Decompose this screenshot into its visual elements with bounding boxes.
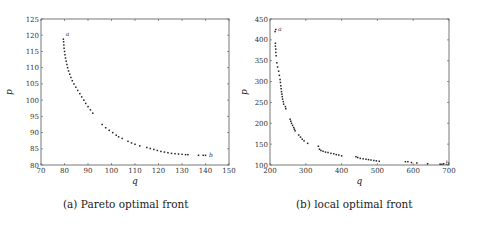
data-point <box>164 151 166 153</box>
annotation-a: a <box>278 25 282 32</box>
data-point <box>185 154 187 156</box>
data-point <box>178 153 180 155</box>
data-point <box>157 150 159 152</box>
annotation-b: b <box>445 159 449 166</box>
data-point <box>72 80 74 82</box>
y-tick-label: 400 <box>255 36 268 44</box>
data-point <box>134 144 136 146</box>
data-point <box>338 154 340 156</box>
data-point <box>275 48 277 50</box>
data-point <box>279 75 281 77</box>
data-point <box>275 42 277 44</box>
data-point <box>291 123 293 125</box>
data-point <box>303 140 305 142</box>
data-point <box>202 155 204 157</box>
data-point <box>292 125 294 127</box>
data-point <box>90 109 92 111</box>
x-tick-label: 130 <box>175 167 188 175</box>
data-point <box>298 134 300 136</box>
data-point <box>330 153 332 155</box>
data-point <box>365 158 367 160</box>
y-tick-label: 450 <box>255 16 268 24</box>
annotation-b: b <box>209 151 213 158</box>
y-tick-label: 80 <box>30 162 39 170</box>
data-point <box>70 77 72 79</box>
data-point <box>81 96 83 98</box>
data-point <box>357 157 359 159</box>
caption-panel-a: (a) Pareto optimal front <box>63 198 189 210</box>
data-point <box>275 29 277 31</box>
data-point <box>174 153 176 155</box>
data-point <box>181 154 183 156</box>
data-point <box>101 124 103 126</box>
data-point <box>322 151 324 153</box>
data-point <box>139 145 141 147</box>
y-tick-label: 100 <box>26 97 39 105</box>
y-tick-label: 85 <box>30 145 39 153</box>
data-point <box>355 156 357 158</box>
y-tick-label: 90 <box>30 129 39 137</box>
data-point <box>85 103 87 105</box>
data-point <box>341 155 343 157</box>
data-point <box>285 106 287 108</box>
data-point <box>275 45 277 47</box>
y-axis-label: p <box>4 89 14 95</box>
x-tick-label: 600 <box>407 167 420 175</box>
y-tick-label: 100 <box>255 162 268 170</box>
data-point <box>64 54 66 56</box>
x-tick-label: 400 <box>335 167 348 175</box>
x-tick-label: 90 <box>84 167 93 175</box>
data-point <box>336 154 338 156</box>
data-point <box>325 151 327 153</box>
data-point <box>65 60 67 62</box>
data-point <box>75 86 77 88</box>
y-tick-label: 120 <box>26 32 39 40</box>
data-point <box>277 66 279 68</box>
data-point <box>67 67 69 69</box>
data-point <box>362 158 364 160</box>
data-point <box>281 91 283 93</box>
y-tick-label: 300 <box>255 78 268 86</box>
data-point <box>83 99 85 101</box>
data-point <box>198 155 200 157</box>
data-point <box>279 79 281 81</box>
data-point <box>108 130 110 132</box>
data-point <box>294 130 296 132</box>
y-tick-label: 350 <box>255 57 268 65</box>
x-axis-label: q <box>132 176 138 186</box>
data-point <box>92 112 94 114</box>
data-point <box>68 70 70 72</box>
data-point <box>160 151 162 153</box>
data-point <box>327 152 329 154</box>
data-point <box>112 132 114 134</box>
data-point <box>283 101 285 103</box>
y-tick-label: 250 <box>255 99 268 107</box>
data-point <box>275 52 277 54</box>
data-point <box>281 93 283 95</box>
chart-panel-a: 7080901001101201301401508085909510010511… <box>4 16 236 187</box>
data-point <box>439 163 441 165</box>
x-tick-label: 300 <box>299 167 312 175</box>
data-point <box>281 96 283 98</box>
data-point <box>187 154 189 156</box>
y-tick-label: 200 <box>255 120 268 128</box>
data-point <box>79 93 81 95</box>
data-point <box>280 85 282 87</box>
figure: 7080901001101201301401508085909510010511… <box>0 0 483 225</box>
data-point <box>105 127 107 129</box>
x-tick-label: 110 <box>128 167 141 175</box>
data-point <box>146 147 148 149</box>
data-point <box>443 163 445 165</box>
x-tick-label: 120 <box>152 167 165 175</box>
data-point <box>283 103 285 105</box>
data-point <box>282 98 284 100</box>
data-point <box>285 108 287 110</box>
x-tick-label: 80 <box>60 167 69 175</box>
data-point <box>69 73 71 75</box>
data-point <box>360 158 362 160</box>
data-point <box>63 48 65 50</box>
annotation-a: a <box>66 30 70 37</box>
data-point <box>77 90 79 92</box>
y-axis-label: p <box>239 89 249 95</box>
chart-panel-b: 2003004005006007001001502002503003504004… <box>239 16 456 187</box>
